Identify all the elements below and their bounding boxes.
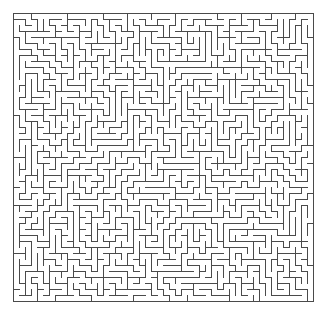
maze-canvas [0, 0, 327, 316]
maze-graphic [0, 0, 327, 316]
maze-page: Dense black-and-white rectangular maze d… [0, 0, 327, 316]
